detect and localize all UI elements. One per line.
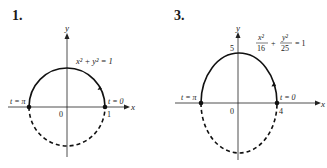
x-axis-label: x: [320, 99, 325, 109]
circle-plot: x y 0 1 t = 0 t = π x² + y² = 1: [0, 0, 163, 168]
term2-numerator: y²: [281, 33, 289, 42]
equals-one: = 1: [295, 39, 306, 48]
point-tpi: [27, 105, 32, 110]
x-axis-arrow-icon: [124, 105, 130, 110]
label-t0: t = 0: [108, 97, 124, 106]
term2-denominator: 25: [281, 44, 289, 53]
point-tpi: [199, 101, 204, 106]
tick-label-x: 4: [279, 107, 283, 116]
term1-numerator: x²: [257, 33, 265, 42]
label-tpi: t = π: [10, 97, 27, 106]
direction-arrow-icon: [272, 82, 277, 87]
term1-denominator: 16: [257, 44, 265, 53]
label-t0: t = 0: [280, 93, 296, 102]
tick-label-y: 5: [230, 44, 234, 53]
y-axis-arrow-icon: [65, 33, 70, 39]
x-axis-label: x: [130, 102, 135, 112]
label-tpi: t = π: [181, 93, 198, 102]
origin-label: 0: [59, 110, 63, 119]
y-axis-label: y: [64, 23, 69, 33]
y-axis-label: y: [235, 23, 240, 33]
solid-upper-arc: [201, 53, 277, 103]
tick-label-x: 1: [107, 110, 111, 119]
point-t0: [275, 101, 280, 106]
point-t0: [103, 105, 108, 110]
figure-3: 3. x y 0 4 5 t = 0 t = π x² 16 + y²: [163, 0, 327, 168]
ellipse-plot: x y 0 4 5 t = 0 t = π x² 16 + y² 25 = 1: [163, 0, 327, 168]
origin-label: 0: [230, 107, 234, 116]
figure-1: 1. x y 0 1 t = 0 t = π x² + y² = 1: [0, 0, 163, 168]
dashed-lower-arc: [201, 103, 277, 153]
plus-sign: +: [271, 39, 276, 48]
equation: x² 16 + y² 25 = 1: [256, 33, 306, 53]
equation: x² + y² = 1: [75, 56, 113, 66]
